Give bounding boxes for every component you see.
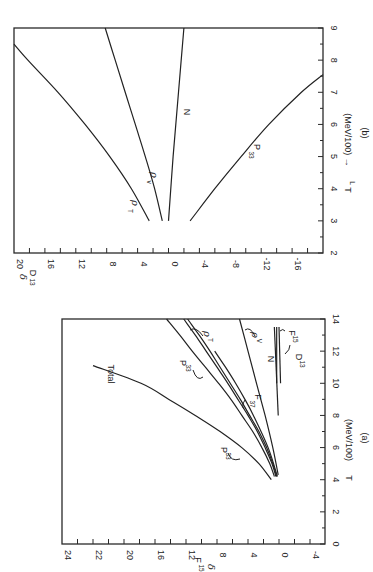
panel-b-caption: (b) — [360, 128, 370, 139]
panel-b-y-label-sub2: 13 — [29, 278, 36, 286]
delta-tick-label: 4 — [249, 552, 259, 557]
tl-tick-label: 3 — [329, 218, 339, 223]
d13-sub: 13 — [299, 360, 306, 368]
curve-f15 — [279, 327, 281, 383]
annotation-arrow — [193, 370, 203, 378]
tl-tick-label: 7 — [329, 90, 339, 95]
delta-tick-label: 4 — [139, 261, 149, 266]
total-label: Total — [106, 364, 116, 383]
f15-sub: 15 — [292, 335, 299, 343]
rho-v-label: ρ — [250, 331, 261, 338]
delta-tick-label: -16 — [293, 257, 303, 270]
t-tick-label: 6 — [331, 445, 341, 450]
panel-b-delta-ticks: 201612840-4-8-12-16 — [15, 248, 308, 271]
n-label: N — [266, 356, 276, 363]
curve-f37 — [215, 351, 278, 476]
rho-t-sub: T — [207, 338, 214, 342]
delta-tick-label: 22 — [94, 550, 104, 560]
p33-label: P — [252, 144, 262, 150]
p33-upper-sub: 33 — [185, 364, 192, 372]
tl-tick-label: 8 — [329, 58, 339, 63]
panel-a-y-label-sub2: 15 — [198, 564, 205, 572]
panel-a-delta-ticks: 2422201612840-4 — [63, 539, 321, 560]
rho-t-label: ρ — [202, 330, 213, 337]
tl-tick-label: 9 — [329, 25, 339, 30]
panel-a-t-ticks: 02468101214 — [320, 314, 341, 547]
tl-tick-label: 2 — [329, 250, 339, 255]
t-tick-label: 8 — [331, 413, 341, 418]
delta-tick-label: -8 — [231, 260, 241, 268]
t-tick-label: 10 — [331, 378, 341, 388]
tl-tick-label: 4 — [329, 186, 339, 191]
panel-a-y-label-delta: δ — [206, 564, 217, 570]
t-tick-label: 2 — [331, 509, 341, 514]
panel-a-curves — [93, 319, 281, 480]
rho-t-sub: T — [127, 209, 134, 213]
panel-a-x-label: (MeV/100) — [344, 419, 354, 461]
delta-tick-label: 24 — [63, 550, 73, 560]
panel-a-caption: (a) — [360, 433, 370, 444]
panel-b-y-label-sub: D — [28, 270, 38, 277]
f37-sub: 37 — [249, 400, 256, 408]
delta-tick-label: 16 — [46, 259, 56, 269]
n-label: N — [182, 109, 192, 116]
panel-a-labels: TotalP33P33ρTF37ρVND13F15T(MeV/100)(a)δF… — [106, 329, 370, 572]
t-tick-label: 4 — [331, 477, 341, 482]
rho-v-label: ρ — [149, 171, 160, 178]
delta-tick-label: 16 — [156, 550, 166, 560]
curve-n — [169, 28, 184, 221]
tl-tick-label: 5 — [329, 154, 339, 159]
t-tick-label: 14 — [331, 314, 341, 324]
rho-v-sub: V — [256, 339, 263, 344]
figure: 201612840-4-8-12-16 23456789 ρTρvNP33(Me… — [0, 0, 373, 572]
panel-b-x-label: (MeV/100) → — [343, 113, 353, 167]
f37-label: F — [253, 394, 263, 400]
delta-tick-label: 20 — [125, 550, 135, 560]
delta-tick-label: -4 — [311, 551, 321, 559]
tl-tick-label: 6 — [329, 122, 339, 127]
panel-b-curves — [14, 28, 323, 221]
t-tick-label: 12 — [331, 346, 341, 356]
panel-b-tl-ticks: 23456789 — [318, 25, 339, 255]
rho-v-sub: v — [146, 180, 153, 184]
curve-total — [93, 366, 271, 480]
delta-tick-label: 8 — [218, 552, 228, 557]
delta-tick-label: -12 — [262, 257, 272, 270]
delta-tick-label: 0 — [170, 261, 180, 266]
t-tick-label: 0 — [331, 541, 341, 546]
panel-a-x-label-t: T — [344, 475, 354, 481]
panel-b-x-label-t: T — [343, 187, 353, 193]
p33-sub: 33 — [248, 151, 255, 159]
panel-a: 2422201612840-4 02468101214 TotalP33P33ρ… — [62, 314, 370, 572]
panel-a-y-label-sub: F — [193, 557, 203, 563]
delta-tick-label: 8 — [108, 261, 118, 266]
delta-tick-label: 0 — [280, 552, 290, 557]
delta-tick-label: -4 — [200, 260, 210, 268]
panel-b-x-label-sub: L — [349, 181, 356, 185]
panel-b-y-label-delta: δ — [18, 274, 29, 280]
annotation-arrow — [285, 345, 290, 354]
annotation-arrow — [280, 330, 285, 332]
delta-tick-label: 12 — [77, 259, 87, 269]
rho-t-label: ρ — [130, 199, 141, 206]
delta-tick-label: 20 — [15, 259, 25, 269]
panel-b-labels: ρTρvNP33(MeV/100) →T(b)δD13L — [18, 109, 370, 286]
curve--t — [14, 44, 149, 221]
panel-b: 201612840-4-8-12-16 23456789 ρTρvNP33(Me… — [14, 25, 370, 286]
